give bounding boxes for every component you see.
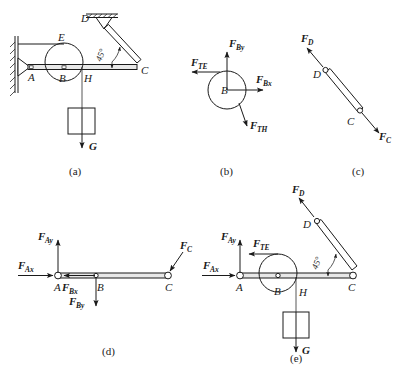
pin-b-e xyxy=(276,273,280,277)
panel-a: 45° A B C D E H G (a) xyxy=(10,12,149,178)
ceiling-support xyxy=(86,14,118,29)
label-a-pointD: D xyxy=(80,12,89,24)
force-TH-arrow xyxy=(239,103,247,126)
force-Bx-sub: Bx xyxy=(262,79,272,88)
label-c-pointC: C xyxy=(347,115,355,127)
label-a-pointA: A xyxy=(27,71,35,83)
bar-ac-fbd-e xyxy=(240,273,355,278)
label-e-forceG: G xyxy=(302,344,310,356)
label-e-pointA: A xyxy=(235,281,243,293)
angle-label-e: 45° xyxy=(310,255,324,271)
label-a-forceG: G xyxy=(89,140,97,152)
force-C-arrow-c xyxy=(362,113,379,133)
force-TE-sub-b: TE xyxy=(198,62,208,71)
pin-d xyxy=(323,67,328,72)
pin-c xyxy=(357,108,362,113)
force-D-arrow-e xyxy=(299,198,314,217)
pin-c-e xyxy=(350,272,357,279)
panel-d: F Ax F Ay F Bx F By F C A B C (d) xyxy=(17,230,193,358)
force-C-arrow-d xyxy=(170,252,183,271)
force-D-sub-e: D xyxy=(298,189,305,198)
panel-e: F D F Ax F Ay F TE G 45° A B C D H (e) xyxy=(202,183,357,365)
label-e-pointH: H xyxy=(298,286,308,298)
force-D-arrow-c xyxy=(307,48,323,67)
label-a-pointB: B xyxy=(59,72,66,84)
angle-arc-e xyxy=(328,254,336,270)
panel-b: B F By F TE F Bx F TH (b) xyxy=(190,37,272,178)
force-By-sub: By xyxy=(235,43,245,52)
force-Ay-sub-e: Ay xyxy=(227,236,236,245)
label-e-pointB: B xyxy=(274,285,281,297)
force-TE-sub-e: TE xyxy=(260,243,270,252)
pin-a-e xyxy=(237,272,244,279)
pin-d-e xyxy=(314,218,319,223)
label-e-pointC: C xyxy=(348,281,356,293)
free-body-diagram-figure: 45° A B C D E H G (a) B F By F TE F Bx F… xyxy=(0,0,398,380)
angle-arc-a xyxy=(112,47,120,62)
label-d-pointA: A xyxy=(53,281,61,293)
caption-b: (b) xyxy=(220,165,233,178)
force-Ax-sub-d: Ax xyxy=(24,265,34,274)
label-c-pointD: D xyxy=(312,68,321,80)
force-Ax-sub-e: Ax xyxy=(209,265,219,274)
wall-support-a xyxy=(10,36,30,96)
caption-a: (a) xyxy=(69,165,82,178)
force-TH-sub: TH xyxy=(257,125,269,134)
strut-dc xyxy=(104,25,141,64)
caption-e: (e) xyxy=(290,352,303,365)
force-C-sub-d: C xyxy=(187,245,193,254)
label-d-pointB: B xyxy=(97,281,104,293)
pin-a-d xyxy=(55,272,62,279)
label-a-pointE: E xyxy=(57,31,65,43)
label-e-pointD: D xyxy=(302,218,311,230)
force-C-sub-c: C xyxy=(386,136,392,145)
force-D-sub-c: D xyxy=(307,38,314,47)
label-a-pointC: C xyxy=(141,64,149,76)
figure-canvas: 45° A B C D E H G (a) B F By F TE F Bx F… xyxy=(0,0,398,380)
pin-c-d xyxy=(165,272,172,279)
force-Ay-sub-d: Ay xyxy=(44,236,53,245)
force-By-sub-d: By xyxy=(75,301,85,310)
caption-c: (c) xyxy=(352,165,365,178)
member-dc xyxy=(323,67,363,113)
label-a-pointH: H xyxy=(83,72,93,84)
caption-d: (d) xyxy=(102,345,115,358)
label-d-pointC: C xyxy=(165,281,173,293)
angle-label-a: 45° xyxy=(94,47,108,63)
panel-c: F D F C D C (c) xyxy=(300,32,392,178)
